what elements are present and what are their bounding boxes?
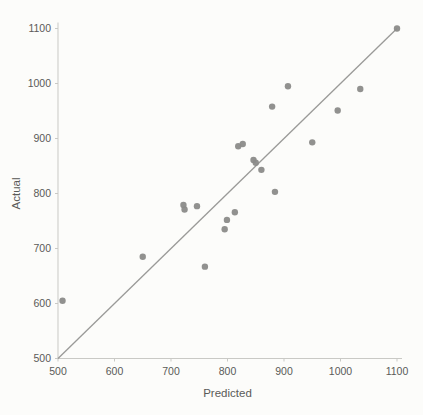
identity-line xyxy=(58,29,397,359)
y-tick-label: 1100 xyxy=(28,22,51,34)
x-tick-label: 700 xyxy=(162,365,180,377)
x-tick-label: 900 xyxy=(275,365,293,377)
data-point xyxy=(202,263,208,269)
x-tick-label: 1000 xyxy=(329,365,353,377)
data-point xyxy=(258,167,264,173)
data-point xyxy=(194,203,200,209)
x-axis-title: Predicted xyxy=(203,387,252,399)
data-point xyxy=(285,83,291,89)
data-point xyxy=(357,86,363,92)
data-point xyxy=(309,139,315,145)
y-tick-label: 700 xyxy=(33,242,51,254)
x-tick-label: 800 xyxy=(219,365,237,377)
y-tick-label: 500 xyxy=(33,352,51,364)
scatter-plot-canvas: 5006007008009001000110050060070080090010… xyxy=(0,0,423,415)
data-point xyxy=(253,160,259,166)
x-tick-label: 1100 xyxy=(386,365,409,377)
data-point xyxy=(181,206,187,212)
data-point xyxy=(140,254,146,260)
y-tick-label: 1000 xyxy=(28,77,52,89)
data-point xyxy=(221,226,227,232)
y-tick-label: 600 xyxy=(33,297,51,309)
data-point xyxy=(240,141,246,147)
x-tick-label: 500 xyxy=(49,365,67,377)
data-point xyxy=(59,298,65,304)
y-tick-label: 800 xyxy=(33,187,51,199)
data-point xyxy=(232,209,238,215)
y-axis-title: Actual xyxy=(10,178,22,210)
data-point xyxy=(224,217,230,223)
data-point xyxy=(272,189,278,195)
x-tick-label: 600 xyxy=(106,365,124,377)
data-point xyxy=(334,107,340,113)
y-tick-label: 900 xyxy=(33,132,51,144)
data-point xyxy=(269,103,275,109)
scatter-chart: 5006007008009001000110050060070080090010… xyxy=(0,0,423,415)
data-point xyxy=(394,25,400,31)
